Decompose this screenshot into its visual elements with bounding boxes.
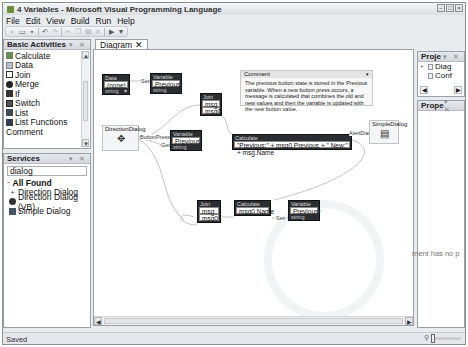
direction-dialog-icon: + (9, 189, 16, 196)
comment-text[interactable]: The previous button state is stored in t… (241, 78, 372, 115)
project-item-diagram[interactable]: +Diag (418, 62, 464, 71)
list-icon (6, 109, 13, 116)
variable-block[interactable]: Variable Previous▾ string (288, 200, 320, 221)
menu-view[interactable]: View (46, 16, 64, 26)
calculate-expression-field[interactable]: msg0.Name (236, 207, 269, 214)
scroll-down-icon[interactable]: ▼ (82, 139, 89, 147)
expand-icon[interactable]: + (420, 62, 426, 71)
open-icon[interactable]: ▭ (18, 28, 26, 36)
paste-icon[interactable]: ▤ (84, 28, 92, 36)
activity-if[interactable]: If (6, 89, 90, 99)
activity-label: Data (15, 60, 33, 70)
connection-label-set: Set (276, 215, 284, 221)
menu-edit[interactable]: Edit (26, 16, 41, 26)
service-direction-dialog-vb[interactable]: Direction Dialog (VB) (4, 197, 90, 207)
calculate-block[interactable]: Calculate msg0.Name (234, 200, 271, 216)
copy-icon[interactable]: ❐ (74, 28, 82, 36)
activity-merge[interactable]: Merge (6, 80, 90, 90)
panel-controls[interactable]: ▾ ✕ (444, 98, 461, 114)
basic-activities-header: Basic Activities ▾ ✕ (4, 40, 90, 50)
field-value: (none) (107, 82, 126, 87)
scroll-left-icon[interactable]: ◀ (420, 86, 428, 94)
scroll-right-icon[interactable]: ▶ (405, 317, 413, 325)
undo-icon[interactable]: ↶ (41, 28, 49, 36)
diagram-horizontal-scrollbar[interactable]: ◀ ▶ (94, 316, 413, 325)
zoom-slider-knob[interactable] (431, 334, 435, 343)
join-input-msg[interactable]: msg (202, 100, 220, 107)
basic-activities-panel: Basic Activities ▾ ✕ Calculate Data Join… (3, 39, 91, 149)
direction-dialog-vb-icon (9, 198, 16, 205)
activity-join[interactable]: Join (6, 70, 90, 80)
activity-data[interactable]: Data (6, 61, 90, 71)
scroll-right-icon[interactable]: ▶ (454, 86, 462, 94)
properties-empty-message: ment has no p (412, 249, 460, 258)
scroll-up-icon[interactable]: ▲ (82, 51, 89, 59)
collapse-icon[interactable]: − (7, 180, 11, 186)
zoom-icon: ⚲ (424, 334, 429, 342)
join-input-msg[interactable]: msg (199, 207, 219, 214)
variable-name-field[interactable]: Previous▾ (152, 80, 180, 87)
data-block[interactable]: Data (none) string▾ (102, 74, 130, 95)
join-block[interactable]: Join msg msg0 (197, 200, 221, 223)
debug-icon[interactable]: ▼ (117, 28, 125, 36)
project-horizontal-scrollbar[interactable]: ◀ ▶ (420, 86, 462, 94)
variable-name-field[interactable]: Previous▾ (172, 137, 200, 144)
project-item-config[interactable]: Conf (418, 71, 464, 80)
panel-controls[interactable]: ▾ ✕ (443, 53, 461, 61)
direction-dialog-block[interactable]: DirectionDialog ✥ (102, 125, 139, 151)
close-button[interactable]: × (455, 4, 463, 12)
scroll-left-icon[interactable]: ◀ (94, 317, 102, 325)
simple-dialog-block[interactable]: SimpleDialog ▤ (369, 120, 399, 144)
variable-name-field[interactable]: Previous▾ (290, 207, 318, 214)
minimize-button[interactable]: – (437, 4, 445, 12)
all-found-node[interactable]: −All Found (4, 178, 90, 188)
type-label: string (291, 214, 304, 220)
services-search-input[interactable]: dialog (7, 166, 87, 176)
activity-comment[interactable]: #Comment (6, 127, 90, 137)
switch-icon (6, 100, 13, 107)
redo-icon[interactable]: ↷ (51, 28, 59, 36)
field-value: msg0.Name (239, 208, 274, 213)
panel-controls[interactable]: ▾ ✕ (69, 41, 87, 49)
cut-icon[interactable]: ✂ (64, 28, 72, 36)
activity-switch[interactable]: Switch (6, 99, 90, 109)
activity-calculate[interactable]: Calculate (6, 51, 90, 61)
variable-block[interactable]: Variable Previous▾ string (170, 130, 202, 151)
menu-build[interactable]: Build (71, 16, 90, 26)
maximize-button[interactable]: □ (446, 4, 454, 12)
chevron-down-icon[interactable]: ▾ (366, 71, 372, 78)
join-input-msg0[interactable]: msg0 (199, 214, 219, 221)
diagram-canvas[interactable]: Data (none) string▾ Set Variable Previou… (93, 49, 414, 326)
project-header: Proje ▾ ✕ (418, 52, 464, 62)
chevron-down-icon: ▾ (180, 81, 183, 86)
connection-label-get: Get (161, 142, 170, 148)
new-icon[interactable]: ▫ (8, 28, 16, 36)
calculate-expression-field[interactable]: "Previous:" + msg0.Previous + " New:" + … (234, 141, 350, 148)
delete-icon[interactable]: ✕ (94, 28, 102, 36)
activity-label: Merge (15, 79, 39, 89)
zoom-control[interactable]: ⚲ (424, 334, 461, 342)
calculate-block[interactable]: Calculate "Previous:" + msg0.Previous + … (232, 134, 352, 150)
activity-list-functions[interactable]: List Functions (6, 118, 90, 128)
menu-help[interactable]: Help (117, 16, 134, 26)
run-icon[interactable]: ▶ (107, 28, 115, 36)
variable-block[interactable]: Variable Previous▾ string (150, 73, 182, 94)
activity-list[interactable]: List (6, 108, 90, 118)
save-icon[interactable]: ▪ (28, 28, 36, 36)
data-icon (6, 62, 13, 69)
scroll-thumb[interactable] (104, 318, 403, 324)
join-block[interactable]: Join msg msg0 (200, 93, 222, 116)
activity-label: Comment (6, 127, 43, 137)
menu-run[interactable]: Run (96, 16, 112, 26)
join-input-msg0[interactable]: msg0 (202, 107, 220, 114)
menu-file[interactable]: File (6, 16, 20, 26)
field-value: msg (205, 101, 217, 106)
data-value-field[interactable]: (none) (104, 81, 128, 88)
scroll-thumb[interactable] (83, 81, 88, 121)
comment-block[interactable]: Comment▾ The previous button state is st… (240, 70, 373, 106)
panel-controls[interactable]: ▾ ✕ (69, 155, 87, 163)
zoom-slider[interactable] (431, 337, 461, 340)
data-type-select[interactable]: string▾ (103, 88, 129, 94)
activities-scrollbar[interactable]: ▲ ▼ (81, 51, 89, 147)
title-bar: 4 Variables - Microsoft Visual Programmi… (3, 3, 465, 15)
